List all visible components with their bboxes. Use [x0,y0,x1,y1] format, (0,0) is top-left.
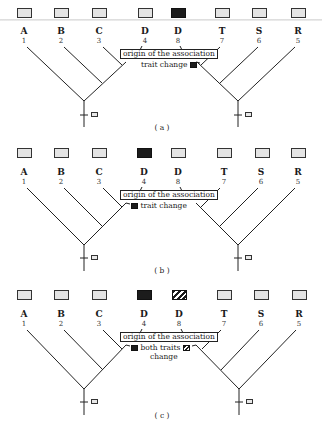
panel-b: A B C D D T S R 1 2 3 4 8 7 6 5 origin [0,141,322,282]
root-trait-box-right [246,399,253,404]
root-trait-box-right [245,255,252,260]
black-trait-marker [131,345,138,351]
trait-change-note: trait change [131,202,187,210]
trait-change-text: trait change [141,60,187,69]
trait-change-note: trait change [141,61,197,69]
hatched-trait-marker [183,345,190,351]
root-trait-box-right [245,112,252,117]
panel-a: A B C D D T S R 1 2 3 4 8 7 6 5 [0,0,322,141]
both-traits-change-note: both traits [131,344,190,352]
black-trait-marker [190,62,197,68]
panel-c: A B C D D T S R 1 2 3 4 8 7 6 5 [0,282,322,423]
both-traits-change-note-line2: change [150,353,178,361]
phylogeny-trees [0,0,322,141]
trait-change-text: trait change [140,201,186,210]
panel-caption: ( b ) [147,267,177,275]
root-trait-box-left [91,112,98,117]
panel-caption: ( c ) [147,412,177,420]
root-trait-box-left [91,255,98,260]
black-trait-marker [131,203,138,209]
both-traits-text: both traits [140,343,180,352]
phylogeny-trees [0,141,322,282]
origin-of-association-label: origin of the association [120,190,218,200]
origin-of-association-label: origin of the association [120,49,218,59]
panel-caption: ( a ) [147,124,177,132]
root-trait-box-left [91,399,98,404]
origin-of-association-label: origin of the association [120,332,218,342]
